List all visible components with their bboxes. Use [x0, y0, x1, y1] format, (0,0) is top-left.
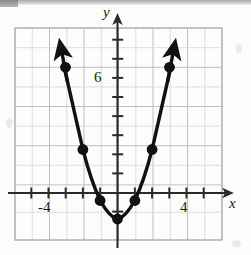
x-axis-label: x	[229, 196, 236, 211]
data-point	[164, 62, 175, 73]
y-tick-label-6: 6	[94, 70, 102, 85]
data-point	[130, 195, 141, 206]
data-point	[112, 214, 123, 225]
data-point	[95, 195, 106, 206]
x-tick-label-neg4: -4	[38, 200, 51, 215]
graph-screenshot: y x -4 4 6	[0, 0, 251, 255]
x-tick-label-pos4: 4	[180, 200, 188, 215]
data-point	[60, 62, 71, 73]
data-point	[147, 144, 158, 155]
data-point	[78, 144, 89, 155]
coordinate-plane	[0, 0, 251, 255]
y-axis-label: y	[103, 5, 110, 20]
